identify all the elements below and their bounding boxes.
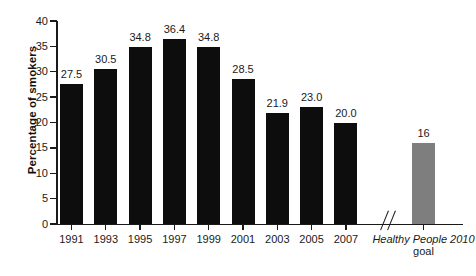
y-tick-mark [50,173,57,174]
goal-label-roman: goal [413,245,434,257]
x-tick-mark [345,225,346,230]
x-tick-mark [311,225,312,230]
x-tick-mark [105,225,106,230]
y-tick-mark [50,20,57,21]
y-tick-label: 35 [18,41,48,52]
y-tick-mark [50,223,57,224]
y-tick-label: 10 [18,168,48,179]
y-tick-mark [50,96,57,97]
bar-value-label: 34.8 [185,32,232,43]
x-label-2007: 2007 [326,233,366,245]
x-tick-mark [208,225,209,230]
x-tick-mark [242,225,243,230]
y-tick-mark [50,46,57,47]
plot-area: 0510152025303540 27.530.534.836.434.828.… [0,0,476,276]
x-label-goal: Healthy People 2010 goal [364,233,476,258]
bar-value-label: 20.0 [322,108,369,119]
bar-1991 [60,84,83,224]
bar-value-label: 23.0 [288,92,335,103]
y-tick-label: 25 [18,92,48,103]
axis-break-icon [380,210,402,232]
bar-2007 [334,123,357,225]
x-tick-mark [277,225,278,230]
smoking-prevalence-bar-chart: Percentage of smokers 0510152025303540 2… [0,0,476,276]
bar-2001 [232,79,255,224]
y-tick-label: 20 [18,117,48,128]
y-tick-mark [50,198,57,199]
y-tick-mark [50,122,57,123]
bar-1999 [197,47,220,224]
y-tick-label: 5 [18,193,48,204]
bar-1993 [94,69,117,224]
y-tick-label: 40 [18,16,48,27]
bar-1995 [129,47,152,224]
x-tick-mark [174,225,175,230]
bar-value-label: 27.5 [48,69,95,80]
y-tick-mark [50,147,57,148]
bar-value-label: 16 [400,128,447,139]
y-tick-label: 30 [18,66,48,77]
goal-label-italic: Healthy People 2010 [372,233,474,245]
goal-bar [412,143,435,224]
bar-value-label: 30.5 [82,54,129,65]
bar-1997 [163,39,186,224]
bar-2005 [300,107,323,224]
bar-value-label: 28.5 [220,64,267,75]
x-tick-mark [71,225,72,230]
y-tick-label: 15 [18,142,48,153]
bar-2003 [266,113,289,224]
x-tick-mark [423,225,424,230]
x-tick-mark [139,225,140,230]
y-tick-label: 0 [18,219,48,230]
